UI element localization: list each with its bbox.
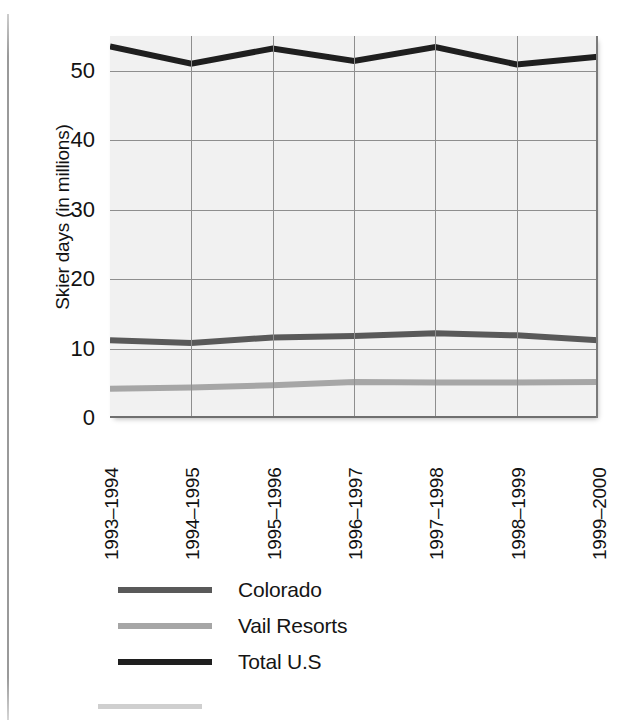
x-tick-label: 1996–1997 — [354, 430, 376, 560]
legend-label: Total U.S — [238, 650, 321, 674]
footer-rule — [98, 704, 202, 709]
gridline-vertical — [435, 36, 436, 418]
y-tick-label: 40 — [35, 127, 95, 153]
x-tick-label: 1998–1999 — [517, 430, 539, 560]
x-tick-label: 1999–2000 — [598, 430, 620, 560]
plot-inner — [110, 36, 598, 418]
legend-swatch — [118, 659, 212, 665]
legend-swatch — [118, 623, 212, 629]
x-axis-line — [110, 416, 598, 418]
plot-area — [110, 36, 598, 418]
gridline-vertical — [517, 36, 518, 418]
legend-item-colorado[interactable]: Colorado — [118, 572, 498, 608]
gridline-vertical — [354, 36, 355, 418]
gridline-vertical — [191, 36, 192, 418]
y-tick-label: 0 — [35, 405, 95, 431]
right-axis-line — [596, 36, 598, 418]
x-tick-label: 1993–1994 — [110, 430, 132, 560]
y-tick-label: 50 — [35, 58, 95, 84]
legend-item-total-u-s[interactable]: Total U.S — [118, 644, 498, 680]
y-tick-label: 10 — [35, 336, 95, 362]
gridline-vertical — [273, 36, 274, 418]
legend-swatch — [118, 587, 212, 593]
legend-label: Colorado — [238, 578, 322, 602]
x-tick-label: 1997–1998 — [435, 430, 457, 560]
skier-days-line-chart: Skier days (in millions) 01020304050 199… — [0, 0, 641, 720]
legend-item-vail-resorts[interactable]: Vail Resorts — [118, 608, 498, 644]
legend-label: Vail Resorts — [238, 614, 347, 638]
y-tick-label: 20 — [35, 266, 95, 292]
x-tick-label: 1995–1996 — [273, 430, 295, 560]
chart-legend: ColoradoVail ResortsTotal U.S — [118, 572, 498, 680]
x-tick-label: 1994–1995 — [191, 430, 213, 560]
y-tick-label: 30 — [35, 197, 95, 223]
